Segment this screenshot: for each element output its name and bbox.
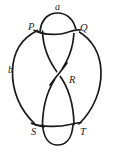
chord-ST-gap: [46, 124, 52, 125]
crossing-label-S: S: [31, 127, 36, 138]
outer-left-arc-b: [12, 31, 37, 124]
crossing-label-R: R: [69, 75, 75, 86]
arc-label-a: a: [55, 2, 60, 12]
knot-diagram-canvas: [0, 0, 114, 153]
outer-right-arc: [79, 32, 102, 125]
knot-diagram-figure: a b P Q R S T: [0, 0, 114, 153]
crossing-label-P: P: [28, 22, 34, 33]
crossing-label-T: T: [80, 127, 86, 138]
arc-label-b: b: [8, 65, 13, 75]
crossing-label-Q: Q: [80, 23, 88, 34]
